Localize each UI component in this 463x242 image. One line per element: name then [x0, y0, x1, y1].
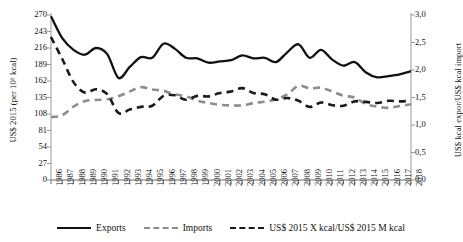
legend-label-ratio: US$ 2015 X kcal/US$ 2015 M kcal [269, 223, 405, 233]
legend-label-imports: Imports [183, 223, 213, 233]
x-axis-tick-label: 2016 [393, 169, 402, 186]
y-axis-left-tick: 135 [17, 93, 47, 102]
y-axis-left-tick: 270 [17, 10, 47, 19]
y-axis-right-tick: 0,5 [415, 148, 445, 157]
x-axis-tick-label: 1987 [66, 169, 75, 186]
y-axis-left-tick: 108 [17, 109, 47, 118]
y-axis-left-tick: 243 [17, 27, 47, 36]
y-axis-left-tick: 0 [17, 175, 47, 184]
x-axis-tick-label: 2012 [348, 169, 357, 186]
x-axis-tick-label: 2015 [381, 169, 390, 186]
x-axis-tick-label: 2001 [224, 169, 233, 186]
x-axis-tick-label: 1993 [134, 169, 143, 186]
y-axis-right-tick: 2,0 [415, 65, 445, 74]
legend-item-exports: Exports [57, 223, 126, 233]
y-axis-right-title: US$ kcal expor/US$ kcal import [453, 20, 463, 180]
y-axis-left-tick: 27 [17, 159, 47, 168]
x-axis-tick-label: 1994 [145, 169, 154, 186]
series-line-0 [51, 16, 411, 78]
y-axis-right-tick: 2,5 [415, 38, 445, 47]
x-axis-tick-label: 1992 [123, 169, 132, 186]
y-axis-left-tick: 216 [17, 43, 47, 52]
x-axis-tick-label: 2003 [246, 169, 255, 186]
legend-label-exports: Exports [96, 223, 126, 233]
x-axis-tick-label: 1991 [111, 169, 120, 186]
x-axis-tick-label: 1986 [55, 169, 64, 186]
y-axis-right-tick: 1,0 [415, 120, 445, 129]
x-axis-tick-label: 1995 [156, 169, 165, 186]
legend-swatch-ratio [230, 227, 264, 229]
series-line-2 [51, 37, 411, 114]
legend-item-imports: Imports [144, 223, 213, 233]
x-axis-tick-label: 2018 [415, 169, 424, 186]
x-axis-tick-label: 2000 [213, 169, 222, 186]
x-axis-tick-label: 2013 [359, 169, 368, 186]
x-axis-tick-label: 2005 [269, 169, 278, 186]
y-axis-left-tick: 81 [17, 126, 47, 135]
x-axis-tick-label: 2017 [404, 169, 413, 186]
legend-item-ratio: US$ 2015 X kcal/US$ 2015 M kcal [230, 223, 405, 233]
x-axis-tick-label: 2006 [280, 169, 289, 186]
x-axis-tick-label: 2010 [325, 169, 334, 186]
y-axis-left-tick: 162 [17, 76, 47, 85]
chart-legend: Exports Imports US$ 2015 X kcal/US$ 2015… [0, 218, 462, 238]
x-axis-tick-label: 2009 [314, 169, 323, 186]
x-axis-tick-label: 1996 [168, 169, 177, 186]
y-axis-right-tick: 1,5 [415, 93, 445, 102]
legend-swatch-imports [144, 227, 178, 229]
x-axis-tick-label: 2002 [235, 169, 244, 186]
x-axis-tick-label: 1997 [179, 169, 188, 186]
x-axis-tick-label: 1999 [201, 169, 210, 186]
x-axis-tick-label: 1998 [190, 169, 199, 186]
y-axis-left-tick: 189 [17, 60, 47, 69]
y-axis-right-tick: 3,0 [415, 10, 445, 19]
x-axis-tick-label: 2014 [370, 169, 379, 186]
x-axis-tick-label: 2008 [303, 169, 312, 186]
x-axis-tick-label: 1990 [100, 169, 109, 186]
x-axis-tick-label: 1989 [89, 169, 98, 186]
x-axis-tick-label: 1988 [78, 169, 87, 186]
x-axis-tick-label: 2011 [336, 169, 345, 186]
x-axis-tick-label: 2007 [291, 169, 300, 186]
x-axis-tick-label: 2004 [258, 169, 267, 186]
legend-swatch-exports [57, 227, 91, 229]
y-axis-left-tick: 54 [17, 142, 47, 151]
